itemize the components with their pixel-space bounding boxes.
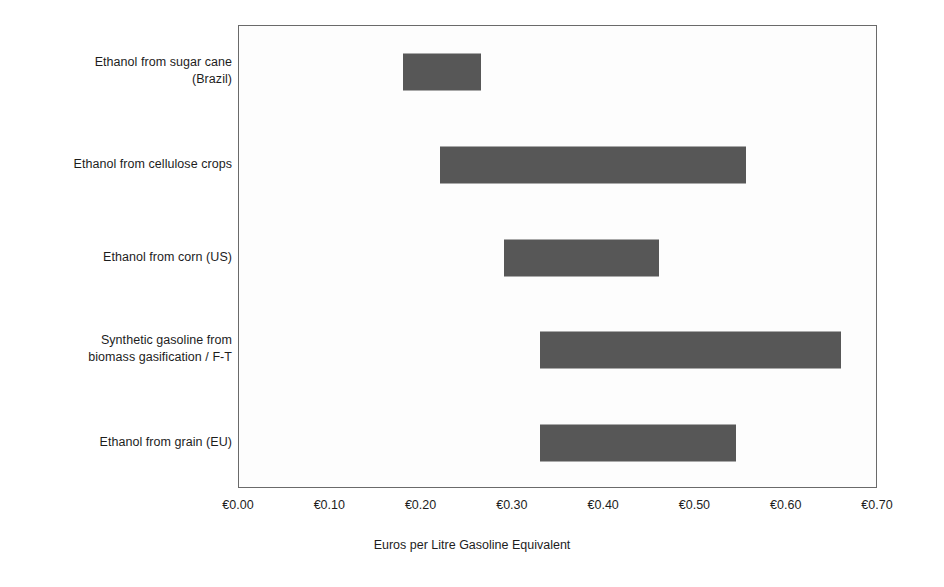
category-label: Ethanol from sugar cane (Brazil) — [0, 54, 232, 88]
range-bar — [540, 424, 736, 461]
x-tick-label: €0.70 — [861, 497, 892, 513]
category-label: Ethanol from grain (EU) — [0, 433, 232, 450]
x-tick-label: €0.00 — [222, 497, 253, 513]
x-tick-label: €0.50 — [679, 497, 710, 513]
x-axis-tick-labels: €0.00€0.10€0.20€0.30€0.40€0.50€0.60€0.70 — [0, 497, 944, 519]
x-axis-title: Euros per Litre Gasoline Equivalent — [0, 538, 944, 552]
x-tick-label: €0.30 — [496, 497, 527, 513]
category-axis: Ethanol from sugar cane (Brazil)Ethanol … — [0, 25, 232, 488]
x-tick-label: €0.10 — [314, 497, 345, 513]
plot-area — [238, 25, 877, 488]
x-tick-label: €0.40 — [588, 497, 619, 513]
x-tick-label: €0.60 — [770, 497, 801, 513]
bars-layer — [239, 26, 876, 487]
range-bar — [504, 239, 659, 276]
chart-figure: Ethanol from sugar cane (Brazil)Ethanol … — [0, 0, 944, 587]
range-bar — [540, 332, 841, 369]
category-label: Ethanol from corn (US) — [0, 248, 232, 265]
range-bar — [403, 54, 481, 91]
category-label: Synthetic gasoline from biomass gasifica… — [0, 332, 232, 366]
category-label: Ethanol from cellulose crops — [0, 155, 232, 172]
x-tick-label: €0.20 — [405, 497, 436, 513]
range-bar — [440, 146, 746, 183]
